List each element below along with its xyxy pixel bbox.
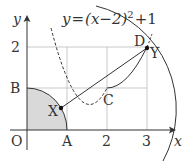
parabola-dashed: [51, 28, 107, 104]
point-x-marker: [59, 106, 63, 110]
tick-x-2: 2: [102, 133, 111, 149]
y-axis-label: y: [12, 11, 22, 27]
parabola-solid: [107, 47, 147, 88]
point-y-label: Y: [149, 45, 160, 61]
tick-x-3: 3: [142, 133, 151, 149]
point-c-label: C: [103, 92, 114, 108]
tick-x-a: A: [61, 133, 73, 149]
axes: [10, 20, 172, 150]
point-y-marker: [145, 46, 149, 50]
tick-y-2: 2: [11, 39, 20, 55]
diagram-canvas: y=(x−2)2+1 y x 2 B O A 2 3 C D X Y: [0, 0, 184, 161]
origin-label: O: [11, 133, 22, 149]
x-axis-label: x: [174, 133, 182, 149]
point-d-label: D: [134, 33, 145, 49]
tick-y-b: B: [10, 80, 20, 96]
equation-label: y=(x−2)2+1: [61, 9, 157, 28]
point-x-label: X: [48, 103, 58, 119]
